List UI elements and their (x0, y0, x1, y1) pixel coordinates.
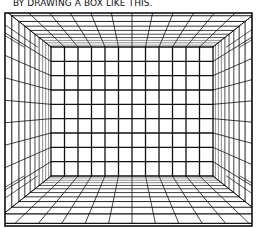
ceiling-grid (0, 0, 256, 47)
right-wall-grid (213, 0, 256, 223)
perspective-grid-room (0, 0, 256, 228)
left-wall-grid (0, 0, 51, 223)
floor-grid (0, 176, 256, 223)
back-wall-grid (51, 47, 213, 176)
